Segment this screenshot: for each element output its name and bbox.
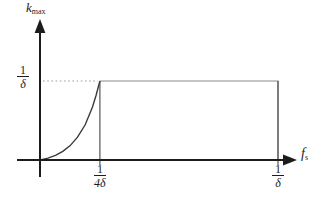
y-axis-label-subscript: max xyxy=(32,7,46,16)
x-tick-label-quarter: 1 4δ xyxy=(88,162,112,190)
function-plot-figure: kmax 1 δ 1 4δ 1 δ fs xyxy=(0,0,324,200)
x-tick-one-numerator: 1 xyxy=(272,163,284,176)
y-tick-denominator: δ xyxy=(13,78,33,91)
x-axis-label-subscript: s xyxy=(305,153,308,162)
plateau-polyline xyxy=(100,81,278,160)
y-tick-numerator: 1 xyxy=(17,64,29,77)
x-tick-quarter-denominator: 4δ xyxy=(88,177,112,190)
x-tick-label-one: 1 δ xyxy=(266,162,290,190)
y-axis-label: kmax xyxy=(26,1,46,19)
y-tick-label: 1 δ xyxy=(13,63,33,91)
curve-polyline xyxy=(41,81,100,160)
x-tick-one-denominator: δ xyxy=(266,177,290,190)
y-axis-arrow-icon xyxy=(35,19,46,33)
x-axis-label: fs xyxy=(301,147,308,165)
x-tick-quarter-numerator: 1 xyxy=(94,163,106,176)
